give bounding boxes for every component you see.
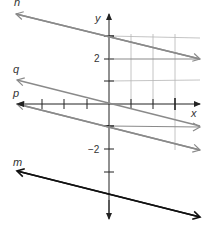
line-m-label: m bbox=[13, 156, 22, 168]
line-m: m bbox=[13, 156, 200, 217]
line-p-label: p bbox=[12, 87, 19, 99]
line-n-label: n bbox=[14, 0, 20, 8]
line-p-left-arrow bbox=[16, 101, 24, 107]
axes: y x 2 −2 bbox=[18, 12, 200, 219]
y-axis-label: y bbox=[94, 12, 102, 24]
y-tick-label-2: 2 bbox=[94, 53, 100, 64]
grid-horizontal-1 bbox=[109, 80, 200, 81]
line-n: n bbox=[14, 0, 200, 59]
grid bbox=[109, 34, 200, 150]
grid-horizontal-3 bbox=[109, 36, 200, 38]
line-q: q bbox=[13, 63, 200, 126]
coordinate-graph: y x 2 −2 n q p m bbox=[0, 0, 214, 231]
x-axis-label: x bbox=[190, 107, 197, 119]
y-tick-label-neg2: −2 bbox=[88, 144, 100, 155]
grid-horizontal-neg1 bbox=[109, 126, 200, 127]
line-q-label: q bbox=[13, 63, 20, 75]
